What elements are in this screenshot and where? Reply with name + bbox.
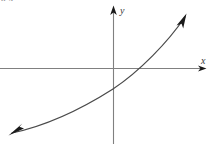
curve-start-arrowhead: [9, 124, 25, 136]
graph-figure: 8.4 y x: [0, 0, 213, 144]
x-axis: [0, 66, 207, 72]
exponential-curve: [9, 14, 187, 136]
y-axis: [110, 6, 117, 145]
graph-canvas: [0, 0, 213, 144]
curve-line: [12, 17, 185, 133]
y-axis-label: y: [120, 6, 124, 16]
x-axis-label: x: [201, 56, 205, 66]
